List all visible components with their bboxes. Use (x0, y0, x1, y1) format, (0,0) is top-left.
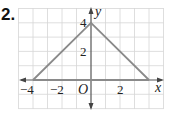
x-tick-neg2: −2 (50, 82, 64, 97)
coordinate-graph: 4 2 −4 −2 O 2 x y (0, 0, 170, 116)
origin-label: O (78, 82, 88, 97)
x-axis-label: x (154, 80, 162, 95)
y-axis-arrow-up (89, 7, 94, 14)
y-tick-2: 2 (80, 44, 87, 59)
y-tick-4: 4 (80, 15, 87, 30)
x-tick-2: 2 (117, 82, 124, 97)
x-tick-neg4: −4 (20, 82, 34, 97)
y-axis-label: y (93, 4, 102, 19)
